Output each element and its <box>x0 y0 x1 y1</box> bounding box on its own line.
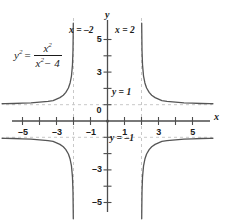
x-tick-label-5: 5 <box>190 128 195 137</box>
label-vertical-asymptote-right: x = 2 <box>115 26 135 36</box>
origin-dot <box>106 119 109 122</box>
x-tick-label-3: 3 <box>156 128 161 137</box>
label-horizontal-asymptote-upper: y = 1 <box>112 88 131 98</box>
y-tick-label--5: –5 <box>92 198 102 207</box>
equation-fraction: x2 x2− 4 <box>34 42 62 68</box>
curve-upper-right-branch <box>142 23 213 104</box>
equation-equals: = <box>24 50 30 61</box>
label-vertical-asymptote-left: x = –2 <box>69 26 93 36</box>
x-tick-label--1: –1 <box>86 128 96 137</box>
y-tick-label--3: –3 <box>92 165 102 174</box>
fraction-denominator: x2− 4 <box>34 56 62 69</box>
fraction-numerator: x2 <box>40 42 54 55</box>
y-tick-label-3: 3 <box>97 68 102 77</box>
curve-lower-left-branch <box>2 138 73 219</box>
x-tick-label--3: –3 <box>52 128 62 137</box>
x-tick-label--5: –5 <box>18 128 28 137</box>
y-tick-label-0: 0 <box>97 106 102 115</box>
equation-annotation: y2 = x2 x2− 4 <box>14 42 62 68</box>
x-axis-label: x <box>214 112 219 122</box>
plot-canvas <box>0 0 226 223</box>
y-tick-label-5: 5 <box>97 35 102 44</box>
x-tick-label-1: 1 <box>122 128 127 137</box>
y-axis-label: y <box>105 10 109 20</box>
curve-lower-right-branch <box>142 138 213 219</box>
graph-figure: y2 = x2 x2− 4 x = –2 x = 2 y = 1 y = –1 … <box>0 0 226 223</box>
equation-lhs: y2 <box>14 49 22 61</box>
